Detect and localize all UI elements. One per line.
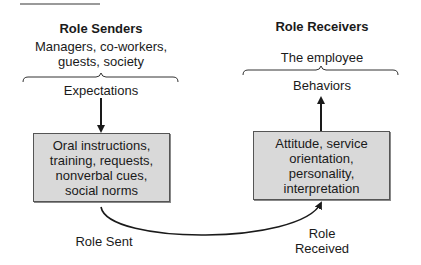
role-received-line1: Role	[309, 226, 336, 242]
senders-title: Role Senders	[59, 21, 142, 36]
expectations-label: Expectations	[64, 83, 138, 99]
senders-who-line1: Managers, co-workers,	[35, 39, 167, 55]
senders-box-text: Oral instructions, training, requests, n…	[50, 138, 153, 198]
role-sent-curve	[101, 203, 321, 235]
receivers-box-text: Attitude, service orientation, personali…	[275, 136, 368, 196]
receivers-brace	[243, 66, 398, 75]
senders-brace	[23, 73, 178, 82]
senders-box: Oral instructions, training, requests, n…	[33, 133, 170, 202]
receivers-box: Attitude, service orientation, personali…	[253, 131, 390, 200]
behaviors-label: Behaviors	[293, 78, 351, 94]
role-received-line2: Received	[295, 241, 349, 257]
senders-who-line2: guests, society	[58, 54, 144, 70]
receivers-who: The employee	[281, 50, 363, 66]
receivers-title: Role Receivers	[275, 19, 368, 34]
role-sent-label: Role Sent	[75, 234, 132, 250]
